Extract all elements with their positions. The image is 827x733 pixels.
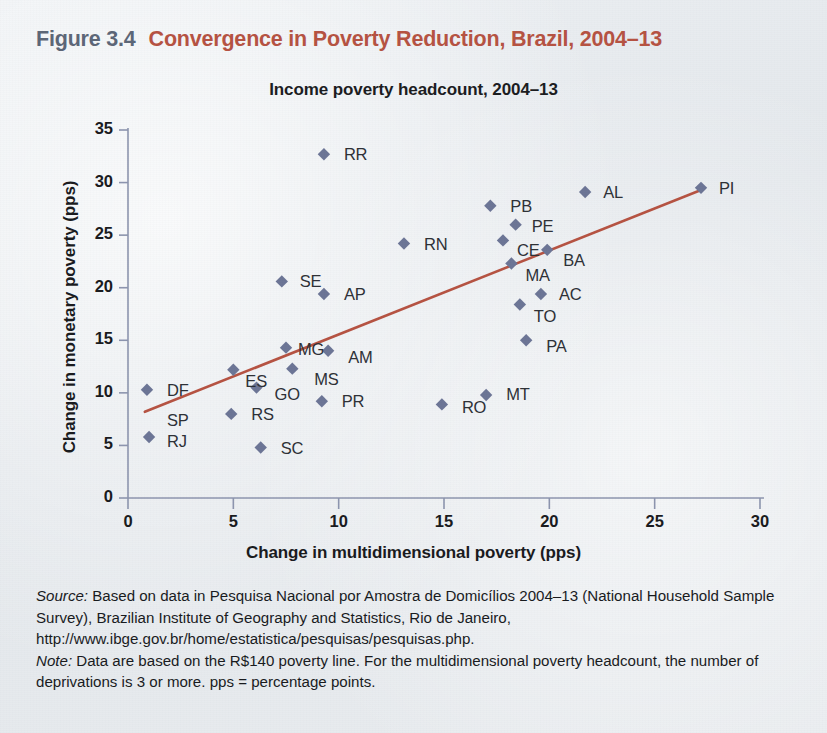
source-label: Source: [36,587,88,604]
data-point-marker [225,408,237,420]
x-axis-ticks [128,498,760,509]
data-point-label: CE [517,241,540,260]
data-point-label: GO [275,385,300,404]
data-point-label: PA [546,337,566,356]
data-point-marker [509,218,521,230]
data-point-marker [535,288,547,300]
x-tick-label: 25 [635,512,675,531]
data-point-marker [276,275,288,287]
data-point-label: MT [506,385,529,404]
data-point-marker [143,431,155,443]
data-point-label: RO [462,398,486,417]
data-point-marker [318,148,330,160]
data-point-marker [141,384,153,396]
figure-container: Figure 3.4Convergence in Poverty Reducti… [0,0,827,733]
axes [128,128,764,498]
data-point-label: PR [342,392,365,411]
data-point-label: PB [510,197,532,216]
data-point-label: RS [251,405,274,424]
x-tick-label: 0 [108,512,148,531]
data-point-marker [436,398,448,410]
y-axis-title: Change in monetary poverty (pps) [60,117,80,517]
x-tick-label: 15 [424,512,464,531]
data-point-marker [255,441,267,453]
y-axis-ticks [119,130,128,498]
data-point-label: RR [344,145,367,164]
data-point-marker [484,200,496,212]
data-point-marker [286,362,298,374]
data-point-label: AL [603,183,623,202]
data-point-label: AC [559,285,582,304]
source-note: Source: Based on data in Pesquisa Nacion… [36,585,798,650]
x-tick-label: 30 [740,512,780,531]
data-point-label: RJ [167,432,187,451]
data-point-label: AM [348,348,372,367]
figure-notes: Source: Based on data in Pesquisa Nacion… [36,585,798,693]
data-point-marker [316,395,328,407]
x-axis-title: Change in multidimensional poverty (pps) [0,543,827,563]
x-tick-label: 10 [319,512,359,531]
data-point-label: SE [300,272,322,291]
data-point-marker [520,334,532,346]
data-point-label: TO [534,307,556,326]
data-point-label: SC [281,439,304,458]
data-point-label: BA [563,251,585,270]
data-point-marker [497,234,509,246]
data-point-marker [280,341,292,353]
data-point-label: PI [719,179,734,198]
data-point-label: AP [344,285,366,304]
data-point-label: MA [525,266,549,285]
data-point-marker [579,186,591,198]
data-point-label: SP [167,411,189,430]
note-label: Note: [36,652,72,669]
data-point-label: DF [167,381,189,400]
x-tick-label: 20 [529,512,569,531]
trend-line [145,190,701,412]
data-point-label: RN [424,235,447,254]
data-point-label: PE [532,217,554,236]
source-text: Based on data in Pesquisa Nacional por A… [36,587,774,647]
data-point-label: MG [298,340,324,359]
data-point-marker [514,298,526,310]
data-point-label: MS [314,370,338,389]
data-point-label: ES [245,372,267,391]
x-tick-label: 5 [213,512,253,531]
note-note: Note: Data are based on the R$140 povert… [36,650,798,693]
note-text: Data are based on the R$140 poverty line… [36,652,758,691]
data-point-marker [398,237,410,249]
